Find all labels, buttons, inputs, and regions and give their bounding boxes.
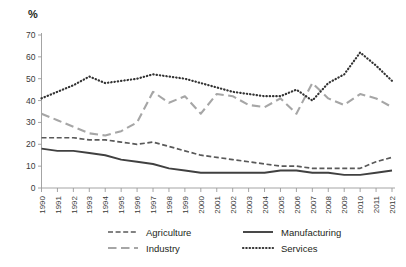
y-tick-label: 50 bbox=[26, 74, 36, 84]
y-tick-label: 40 bbox=[26, 96, 36, 106]
y-tick-label: 20 bbox=[26, 139, 36, 149]
axis-lines bbox=[42, 33, 396, 188]
x-tick-label: 2005 bbox=[277, 195, 286, 213]
x-tick-label: 1991 bbox=[54, 195, 63, 213]
x-tick-label: 1997 bbox=[149, 195, 158, 213]
series-line-industry bbox=[42, 83, 393, 135]
legend-label: Industry bbox=[146, 243, 180, 254]
x-tick-label: 2004 bbox=[261, 195, 270, 213]
y-tick-label: 0 bbox=[31, 183, 36, 193]
y-axis-unit-label: % bbox=[28, 8, 38, 20]
y-tick-label: 10 bbox=[26, 161, 36, 171]
y-tick-label: 30 bbox=[26, 117, 36, 127]
legend-item-services: Services bbox=[243, 243, 318, 254]
chart-canvas: 010203040506070 199019911992199319941995… bbox=[0, 0, 406, 267]
x-tick-label: 2008 bbox=[324, 195, 333, 213]
x-tick-label: 2009 bbox=[340, 195, 349, 213]
x-tick-label: 1998 bbox=[165, 195, 174, 213]
legend-label: Agriculture bbox=[146, 227, 191, 238]
x-tick-label: 2000 bbox=[197, 195, 206, 213]
series-line-manufacturing bbox=[42, 149, 393, 175]
y-tick-label: 60 bbox=[26, 52, 36, 62]
x-tick-label: 2001 bbox=[213, 195, 222, 213]
x-tick-label: 2003 bbox=[245, 195, 254, 213]
legend-item-industry: Industry bbox=[108, 243, 180, 254]
legend-item-agriculture: Agriculture bbox=[108, 227, 191, 238]
chart-legend: AgricultureManufacturingIndustryServices bbox=[108, 227, 341, 254]
x-tick-label: 2012 bbox=[388, 195, 397, 213]
x-tick-label: 1992 bbox=[70, 195, 79, 213]
x-axis-ticks: 1990199119921993199419951996199719981999… bbox=[38, 188, 398, 214]
x-tick-label: 1990 bbox=[38, 195, 47, 213]
line-chart: % 010203040506070 1990199119921993199419… bbox=[0, 0, 406, 267]
legend-item-manufacturing: Manufacturing bbox=[243, 227, 341, 238]
x-tick-label: 1993 bbox=[85, 195, 94, 213]
legend-label: Services bbox=[281, 243, 318, 254]
x-tick-label: 2011 bbox=[372, 195, 381, 213]
x-tick-label: 2010 bbox=[356, 195, 365, 213]
data-series-layer bbox=[42, 52, 393, 174]
legend-label: Manufacturing bbox=[281, 227, 341, 238]
x-tick-label: 2002 bbox=[229, 195, 238, 213]
x-tick-label: 1995 bbox=[117, 195, 126, 213]
y-tick-label: 70 bbox=[26, 30, 36, 40]
x-tick-label: 1999 bbox=[181, 195, 190, 213]
x-tick-label: 2007 bbox=[309, 195, 318, 213]
y-axis-ticks: 010203040506070 bbox=[26, 30, 41, 193]
x-tick-label: 1996 bbox=[133, 195, 142, 213]
x-tick-label: 2006 bbox=[293, 195, 302, 213]
x-tick-label: 1994 bbox=[101, 195, 110, 213]
